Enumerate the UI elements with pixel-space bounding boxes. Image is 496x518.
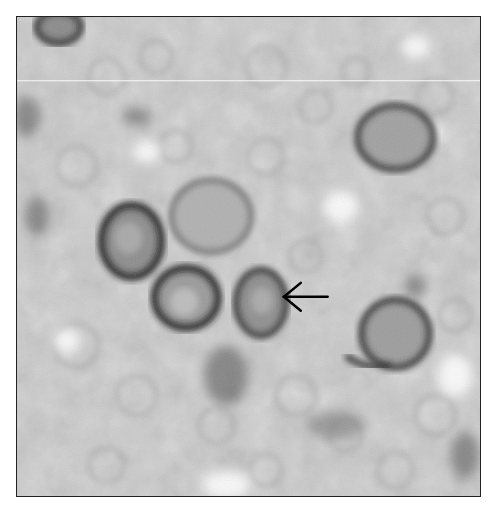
film-grain	[17, 17, 480, 496]
micrograph-image	[17, 17, 480, 496]
micrograph-frame: Grayscale immunohistochemistry micrograp…	[16, 16, 481, 497]
